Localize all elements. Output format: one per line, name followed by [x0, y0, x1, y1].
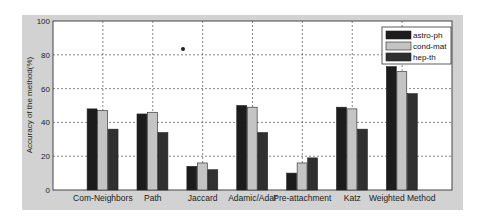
y-axis-ticks: 020406080100	[37, 17, 51, 195]
bar-cond-mat	[247, 107, 257, 190]
x-tick-label: Weighted Method	[369, 193, 436, 203]
x-tick-label: Jaccard	[188, 193, 218, 203]
bar-astro-ph	[87, 109, 97, 190]
bar-cond-mat	[197, 163, 207, 190]
legend-label: astro-ph	[413, 31, 442, 40]
bar-hep-th	[208, 170, 218, 190]
bar-astro-ph	[137, 114, 147, 190]
y-tick-label: 100	[37, 17, 51, 26]
y-axis-label: Accuracy of the method(%)	[25, 56, 34, 153]
bar-cond-mat	[297, 163, 307, 190]
bar-hep-th	[358, 129, 368, 190]
bar-cond-mat	[148, 112, 158, 190]
bar-hep-th	[308, 158, 318, 190]
legend-swatch	[386, 42, 411, 50]
bar-chart: 020406080100 Com-NeighborsPathJaccardAda…	[0, 0, 483, 220]
y-tick-label: 20	[41, 152, 50, 161]
y-tick-label: 80	[41, 51, 50, 60]
bar-astro-ph	[187, 166, 197, 190]
legend-label: cond-mat	[413, 42, 447, 51]
bar-hep-th	[258, 133, 268, 190]
bar-cond-mat	[397, 72, 407, 190]
bar-astro-ph	[237, 106, 247, 191]
legend-swatch	[386, 31, 411, 39]
x-tick-label: Katz	[344, 193, 361, 203]
y-tick-label: 40	[41, 118, 50, 127]
bar-hep-th	[108, 129, 118, 190]
bar-cond-mat	[98, 111, 108, 190]
bar-astro-ph	[287, 173, 297, 190]
legend: astro-phcond-mathep-th	[382, 27, 451, 64]
y-tick-label: 60	[41, 85, 50, 94]
bar-hep-th	[407, 94, 417, 190]
x-tick-label: Path	[144, 193, 162, 203]
x-tick-label: Com-Neighbors	[73, 193, 133, 203]
stray-dot	[181, 47, 185, 51]
x-tick-label: Pre-attachment	[273, 193, 332, 203]
bar-cond-mat	[347, 109, 357, 190]
legend-swatch	[386, 53, 411, 61]
bar-astro-ph	[386, 67, 396, 190]
bar-astro-ph	[337, 107, 347, 190]
x-axis-labels: Com-NeighborsPathJaccardAdamic/AdarPre-a…	[73, 193, 436, 203]
bar-hep-th	[158, 133, 168, 190]
legend-label: hep-th	[413, 53, 436, 62]
y-tick-label: 0	[46, 186, 51, 195]
x-tick-label: Adamic/Adar	[228, 193, 277, 203]
